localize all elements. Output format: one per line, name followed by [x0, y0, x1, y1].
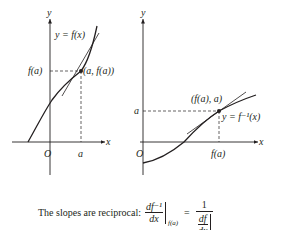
- curve-f: [28, 26, 97, 142]
- left-point-label: (a, f(a)): [83, 65, 115, 77]
- lhs-numerator: df⁻¹: [145, 201, 163, 213]
- left-curve-label: y = f(x): [54, 29, 86, 41]
- right-origin-label: O: [136, 148, 143, 159]
- left-origin-label: O: [44, 148, 51, 159]
- left-y-label: y: [46, 7, 52, 18]
- rhs-inner-denominator: dx: [198, 225, 207, 230]
- equals-sign: =: [184, 207, 190, 218]
- left-graph: y x O a f(a) y = f(x) (a, f(a)): [12, 7, 115, 175]
- right-fa-tick-label: f(a): [211, 148, 226, 160]
- rhs-inner-numerator: df: [198, 213, 208, 225]
- rhs-reciprocal-fraction: 1 df dx a: [196, 199, 213, 230]
- lhs-denominator: dx: [149, 213, 158, 224]
- right-x-label: x: [258, 136, 264, 147]
- lhs-derivative-fraction: df⁻¹ dx: [145, 201, 163, 224]
- left-fa-tick-label: f(a): [28, 65, 43, 77]
- right-graph: y x O f(a) a y = f⁻¹(x) (f(a), a): [134, 7, 264, 175]
- rhs-evaluation-bar: a: [210, 214, 211, 231]
- right-curve-label: y = f⁻¹(x): [221, 111, 261, 123]
- right-point: [217, 109, 221, 113]
- left-a-tick-label: a: [78, 148, 83, 159]
- rhs-eval-point: a: [213, 227, 217, 231]
- reciprocal-slopes-caption: The slopes are reciprocal: df⁻¹ dx f(a) …: [38, 189, 213, 230]
- rhs-inner-fraction: df dx: [198, 213, 208, 230]
- rhs-numerator: 1: [196, 199, 213, 212]
- rhs-denominator: df dx a: [198, 213, 211, 230]
- right-point-label: (f(a), a): [191, 93, 223, 105]
- curve-f-inverse: [143, 95, 256, 163]
- caption-text: The slopes are reciprocal:: [38, 207, 141, 218]
- lhs-evaluation-bar: f(a): [165, 202, 166, 224]
- left-x-label: x: [105, 136, 111, 147]
- right-y-label: y: [140, 7, 146, 18]
- lhs-eval-point: f(a): [168, 219, 178, 227]
- right-a-tick-label: a: [134, 105, 139, 116]
